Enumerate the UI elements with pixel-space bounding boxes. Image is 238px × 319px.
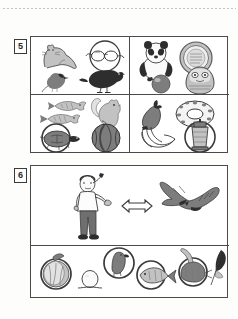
worksheet-page: 5 [0, 0, 238, 319]
cell-5-bottom-right [130, 95, 229, 152]
sparrow-illustration [41, 69, 71, 93]
turtle-circled-illustration [35, 123, 83, 152]
cell-5-top-right [130, 37, 229, 95]
eagle-illustration [159, 179, 221, 219]
crow-illustration [79, 66, 125, 93]
cabbage-circled-illustration [37, 252, 77, 292]
daruma-illustration [184, 65, 216, 95]
exercise-number-6: 6 [14, 168, 27, 183]
exercise-5-frame [30, 36, 228, 153]
lantern-circled-illustration [182, 119, 220, 152]
cell-6-top [31, 166, 229, 246]
ball-illustration [150, 73, 172, 93]
person-pointing-illustration [69, 173, 117, 241]
feather-illustration [207, 249, 229, 287]
cat-illustration [37, 41, 81, 71]
bananas-illustration [138, 125, 178, 149]
exercise-number-5: 5 [14, 39, 27, 54]
egg-illustration [77, 270, 103, 290]
exercise-6-frame [30, 165, 228, 298]
cell-5-top-left [31, 37, 130, 95]
cell-6-bottom [31, 246, 229, 297]
cell-5-bottom-left [31, 95, 130, 152]
double-arrow-symbol [121, 198, 153, 214]
watermelon-illustration [89, 121, 123, 152]
dotted-rule-top [2, 7, 236, 10]
